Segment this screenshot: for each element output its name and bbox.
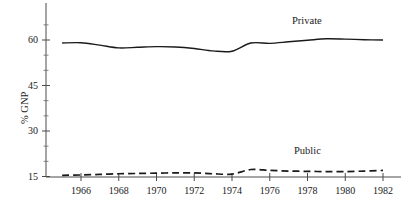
axes xyxy=(46,3,401,177)
line-chart: % GNP 15304560 1966196819701972197419761… xyxy=(0,0,414,209)
data-series-group xyxy=(62,39,383,176)
y-tick-label: 60 xyxy=(14,35,38,45)
x-tick-label: 1978 xyxy=(288,186,328,196)
series-line-private xyxy=(62,39,383,52)
x-tick-label: 1982 xyxy=(363,186,403,196)
plot-area xyxy=(0,0,414,209)
x-tick-label: 1966 xyxy=(61,186,101,196)
y-axis-title: % GNP xyxy=(20,92,31,124)
series-label-private: Private xyxy=(292,16,322,27)
y-tick-label: 45 xyxy=(14,81,38,91)
x-tick-label: 1980 xyxy=(325,186,365,196)
series-label-public: Public xyxy=(294,146,321,157)
y-tick-label: 30 xyxy=(14,126,38,136)
x-tick-label: 1974 xyxy=(212,186,252,196)
x-tick-label: 1968 xyxy=(99,186,139,196)
x-tick-label: 1972 xyxy=(174,186,214,196)
x-tick-label: 1970 xyxy=(137,186,177,196)
series-line-public xyxy=(62,169,383,175)
y-tick-label: 15 xyxy=(14,172,38,182)
x-tick-label: 1976 xyxy=(250,186,290,196)
